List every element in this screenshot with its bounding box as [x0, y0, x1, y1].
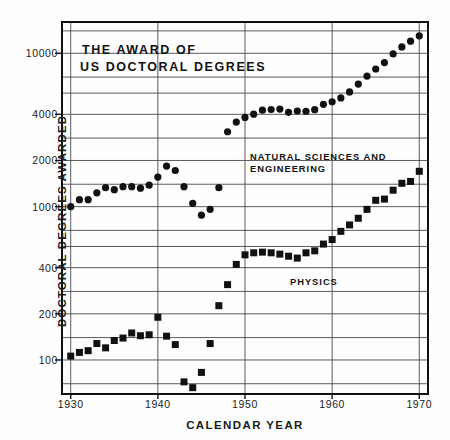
y-tick-label-group: 10020040010002000400010000: [0, 0, 58, 440]
data-point-circle: [346, 88, 353, 95]
series-annotation-nse-line-1: NATURAL SCIENCES AND: [250, 151, 387, 163]
data-point-square: [303, 249, 310, 256]
data-point-square: [146, 331, 153, 338]
data-point-circle: [180, 183, 187, 190]
data-point-circle: [233, 118, 240, 125]
data-point-circle: [146, 182, 153, 189]
data-point-circle: [311, 106, 318, 113]
series-annotation-nse-line-2: ENGINEERING: [250, 163, 387, 175]
data-point-square: [102, 344, 109, 351]
x-tick-label: 1930: [41, 398, 101, 410]
data-point-square: [390, 187, 397, 194]
data-point-circle: [329, 98, 336, 105]
data-point-square: [311, 247, 318, 254]
data-point-square: [320, 241, 327, 248]
data-point-square: [285, 253, 292, 260]
data-point-square: [355, 215, 362, 222]
data-point-circle: [198, 212, 205, 219]
data-point-circle: [390, 50, 397, 57]
data-point-circle: [363, 73, 370, 80]
data-point-circle: [172, 167, 179, 174]
data-point-square: [407, 178, 414, 185]
x-tick-label: 1940: [128, 398, 188, 410]
data-point-square: [181, 378, 188, 385]
chart-figure: DOCTORAL DEGREES AWARDED 100200400100020…: [0, 0, 450, 440]
y-tick-label: 200: [2, 308, 58, 320]
data-point-circle: [93, 189, 100, 196]
data-point-circle: [163, 162, 170, 169]
data-point-square: [276, 251, 283, 258]
data-point-square: [76, 349, 83, 356]
data-point-square: [85, 347, 92, 354]
data-point-square: [189, 384, 196, 391]
data-point-square: [364, 206, 371, 213]
data-point-circle: [111, 186, 118, 193]
y-tick-label: 10000: [2, 47, 58, 59]
data-point-circle: [241, 114, 248, 121]
data-point-square: [372, 197, 379, 204]
chart-title: THE AWARD OF US DOCTORAL DEGREES: [82, 42, 266, 76]
data-point-circle: [416, 32, 423, 39]
chart-title-line-1: THE AWARD OF: [82, 42, 266, 59]
data-point-square: [198, 369, 205, 376]
x-tick-label: 1960: [302, 398, 362, 410]
y-tick-label: 1000: [2, 201, 58, 213]
data-point-circle: [67, 203, 74, 210]
data-point-square: [259, 249, 266, 256]
data-point-circle: [154, 173, 161, 180]
data-point-circle: [207, 206, 214, 213]
data-point-square: [207, 340, 214, 347]
data-point-square: [172, 341, 179, 348]
data-point-square: [294, 255, 301, 262]
data-point-square: [215, 302, 222, 309]
data-point-circle: [320, 101, 327, 108]
data-point-square: [120, 335, 127, 342]
data-point-square: [242, 251, 249, 258]
series-annotation-physics: PHYSICS: [290, 276, 338, 288]
data-point-square: [416, 168, 423, 175]
data-point-circle: [250, 111, 257, 118]
data-point-circle: [276, 105, 283, 112]
data-point-square: [337, 228, 344, 235]
y-tick-label: 400: [2, 262, 58, 274]
data-point-circle: [85, 196, 92, 203]
x-axis-title: CALENDAR YEAR: [62, 419, 428, 431]
data-point-circle: [119, 183, 126, 190]
data-point-square: [346, 221, 353, 228]
data-point-square: [137, 332, 144, 339]
y-tick-label: 100: [2, 354, 58, 366]
data-point-circle: [259, 107, 266, 114]
chart-title-line-2: US DOCTORAL DEGREES: [80, 59, 266, 76]
data-point-circle: [407, 38, 414, 45]
data-point-square: [128, 329, 135, 336]
data-point-square: [93, 340, 100, 347]
data-point-square: [250, 249, 257, 256]
data-point-square: [111, 337, 118, 344]
data-point-circle: [224, 128, 231, 135]
data-point-circle: [355, 80, 362, 87]
data-point-circle: [137, 185, 144, 192]
data-point-circle: [398, 43, 405, 50]
y-tick-label: 4000: [2, 108, 58, 120]
data-point-circle: [372, 65, 379, 72]
data-point-circle: [268, 106, 275, 113]
x-tick-label: 1950: [215, 398, 275, 410]
data-point-circle: [302, 108, 309, 115]
data-point-square: [67, 353, 74, 360]
data-point-circle: [76, 196, 83, 203]
data-point-square: [163, 333, 170, 340]
data-point-square: [233, 261, 240, 268]
data-point-square: [154, 314, 161, 321]
data-point-circle: [215, 184, 222, 191]
data-point-square: [329, 236, 336, 243]
data-point-circle: [294, 107, 301, 114]
data-point-square: [381, 196, 388, 203]
y-tick-label: 2000: [2, 154, 58, 166]
data-point-circle: [337, 94, 344, 101]
data-point-square: [398, 180, 405, 187]
x-tick-label: 1970: [389, 398, 449, 410]
data-point-circle: [189, 200, 196, 207]
data-point-circle: [102, 184, 109, 191]
data-point-circle: [285, 109, 292, 116]
data-point-square: [268, 249, 275, 256]
